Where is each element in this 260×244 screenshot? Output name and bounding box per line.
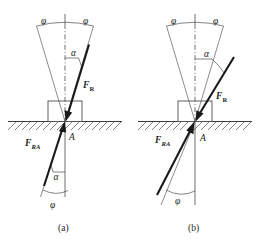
panel-a: φ φ α α φ A F R F RA (a) <box>8 14 122 234</box>
point-label-a: A <box>68 132 75 142</box>
alpha-label-upper-a: α <box>71 48 77 58</box>
cone-arc-lower-a <box>43 190 68 193</box>
cone-arc-lower-b <box>166 190 195 194</box>
phi-label-lower-b: φ <box>175 196 180 206</box>
phi-label-upper-right-a: φ <box>83 16 88 26</box>
alpha-label-lower-a: α <box>54 172 60 182</box>
alpha-label-upper-b: α <box>204 49 210 59</box>
force-resultant-label-b: F R <box>215 91 228 103</box>
force-reaction-label-b: F RA <box>154 135 171 147</box>
alpha-arc-upper-b <box>212 59 225 74</box>
force-reaction-arrowhead-b <box>186 122 194 135</box>
panel-b: φ φ α φ A F R F RA (b) <box>138 14 252 234</box>
svg-text:RA: RA <box>31 143 41 150</box>
force-resultant-line-b <box>200 57 234 113</box>
phi-label-upper-left-a: φ <box>41 16 46 26</box>
point-label-b: A <box>199 133 206 143</box>
friction-cone-diagram: φ φ α α φ A F R F RA (a) <box>0 0 260 244</box>
svg-text:RA: RA <box>161 140 171 147</box>
figure-root: φ φ α α φ A F R F RA (a) <box>0 0 260 244</box>
caption-a: (a) <box>58 223 69 234</box>
alpha-arc-upper-a <box>79 58 82 67</box>
caption-b: (b) <box>188 223 199 234</box>
phi-label-lower-a: φ <box>50 200 55 210</box>
force-reaction-label-a: F RA <box>24 138 41 150</box>
force-resultant-label-a: F R <box>82 80 95 92</box>
phi-label-upper-left-b: φ <box>171 16 176 26</box>
cone-edge-lower-left-b <box>161 122 195 206</box>
phi-label-upper-right-b: φ <box>213 16 218 26</box>
svg-text:R: R <box>223 96 228 103</box>
svg-text:R: R <box>90 85 95 92</box>
